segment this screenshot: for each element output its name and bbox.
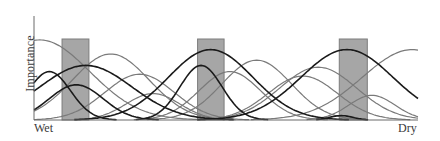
x-axis-label-dry: Dry — [398, 121, 417, 136]
curve-15 — [251, 50, 418, 120]
curve-11 — [147, 60, 368, 119]
x-axis-label-wet: Wet — [34, 121, 53, 136]
shaded-bands — [62, 39, 367, 120]
importance-chart — [0, 0, 440, 141]
y-axis-label: Importance — [23, 34, 38, 94]
